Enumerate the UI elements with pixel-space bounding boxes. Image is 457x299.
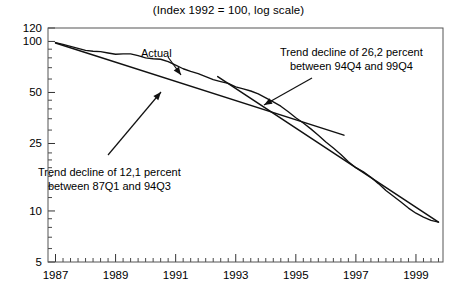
y-tick-label: 50 bbox=[29, 86, 42, 98]
x-axis-minor-ticks bbox=[63, 258, 438, 262]
trend-26-line-1: Trend decline of 26,2 percent bbox=[280, 45, 423, 59]
trend-12-line-2: between 87Q1 and 94Q3 bbox=[38, 179, 181, 193]
trend-26-annotation-arrow bbox=[264, 78, 312, 105]
x-tick-label: 1987 bbox=[43, 269, 69, 281]
y-axis-major-ticks bbox=[48, 28, 55, 262]
y-tick-label: 5 bbox=[36, 256, 42, 268]
y-axis-minor-ticks bbox=[48, 49, 52, 248]
x-tick-label: 1989 bbox=[103, 269, 129, 281]
y-tick-label: 10 bbox=[29, 205, 42, 217]
y-tick-label: 25 bbox=[29, 137, 42, 149]
x-axis-major-ticks bbox=[56, 254, 416, 262]
x-axis-tick-labels: 1987198919911993199519971999 bbox=[43, 269, 429, 281]
actual-series-label: Actual bbox=[141, 47, 172, 59]
y-axis-tick-labels: 1201005025105 bbox=[23, 22, 42, 268]
x-tick-label: 1999 bbox=[403, 269, 429, 281]
y-tick-label: 100 bbox=[23, 35, 42, 47]
trend-1994-1999 bbox=[218, 77, 439, 222]
trend-12-annotation: Trend decline of 12,1 percent between 87… bbox=[38, 165, 181, 193]
chart-container: (Index 1992 = 100, log scale) 1201005025… bbox=[0, 0, 457, 299]
trend-12-annotation-arrow bbox=[108, 92, 161, 155]
trend-12-line-1: Trend decline of 12,1 percent bbox=[38, 165, 181, 179]
y-tick-label: 120 bbox=[23, 22, 42, 34]
trend-26-line-2: between 94Q4 and 99Q4 bbox=[280, 59, 423, 73]
x-tick-label: 1995 bbox=[283, 269, 309, 281]
x-tick-label: 1991 bbox=[163, 269, 189, 281]
x-tick-label: 1993 bbox=[223, 269, 249, 281]
trend-26-annotation: Trend decline of 26,2 percent between 94… bbox=[280, 45, 423, 73]
x-tick-label: 1997 bbox=[343, 269, 369, 281]
